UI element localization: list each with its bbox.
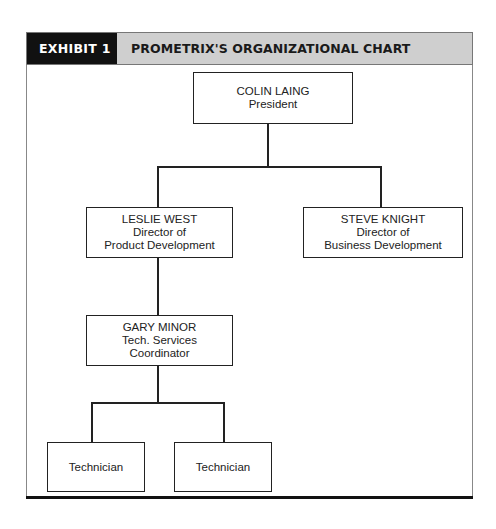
connector: [267, 124, 269, 167]
connector: [91, 402, 224, 404]
connector: [157, 366, 159, 403]
node-technician: Technician: [174, 442, 272, 492]
connector: [157, 166, 381, 168]
node-product-development: LESLIE WEST Director of Product Developm…: [86, 207, 233, 258]
node-role: Coordinator: [129, 347, 189, 360]
node-role: Director of: [356, 226, 409, 239]
connector: [223, 402, 225, 442]
node-name: STEVE KNIGHT: [341, 213, 425, 226]
bottom-rule: [26, 496, 473, 499]
connector: [91, 402, 93, 442]
connector: [157, 166, 159, 207]
node-name: GARY MINOR: [123, 321, 197, 334]
connector: [380, 166, 382, 207]
node-name: COLIN LAING: [237, 85, 310, 98]
node-technician: Technician: [47, 442, 145, 492]
node-role: Business Development: [324, 239, 442, 252]
node-name: LESLIE WEST: [122, 213, 197, 226]
node-role: President: [249, 98, 298, 111]
exhibit-title: PROMETRIX'S ORGANIZATIONAL CHART: [117, 33, 472, 64]
exhibit-header: EXHIBIT 1 PROMETRIX'S ORGANIZATIONAL CHA…: [26, 32, 473, 65]
node-label: Technician: [196, 461, 250, 474]
node-role: Director of: [133, 226, 186, 239]
node-label: Technician: [69, 461, 123, 474]
node-role: Product Development: [104, 239, 215, 252]
node-tech-services: GARY MINOR Tech. Services Coordinator: [86, 315, 233, 366]
node-president: COLIN LAING President: [193, 72, 353, 124]
node-role: Tech. Services: [122, 334, 197, 347]
node-business-development: STEVE KNIGHT Director of Business Develo…: [303, 207, 463, 258]
exhibit-tag: EXHIBIT 1: [27, 33, 117, 64]
connector: [157, 258, 159, 315]
